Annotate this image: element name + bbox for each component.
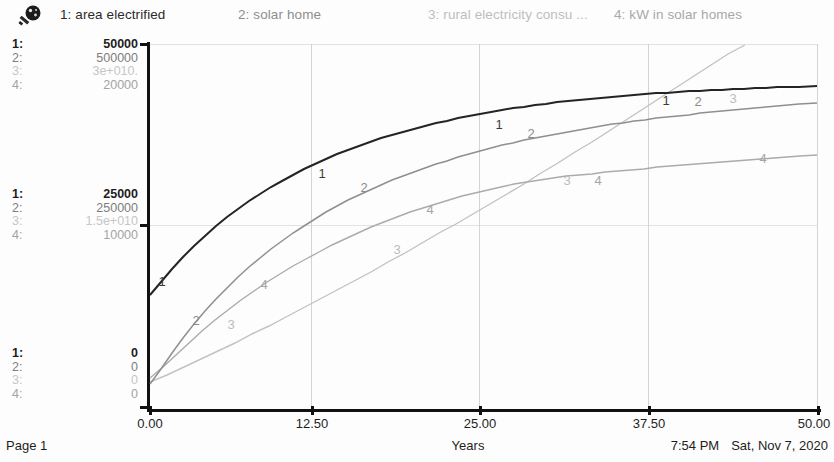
y-scale-row-2: 2: 0	[4, 361, 144, 375]
chart-page: 1: area electrified 2: solar home 3: rur…	[0, 0, 834, 462]
y-scale-value-2: 250000	[96, 202, 138, 216]
y-scale-row-4: 4: 20000	[4, 79, 144, 93]
y-scale-label-1: 1:	[12, 38, 23, 52]
gridline-vertical-2	[479, 44, 480, 410]
curve-marker-1-a: 1	[158, 274, 165, 289]
gridline-vertical-1	[311, 44, 312, 410]
y-scale-value-4: 0	[131, 388, 138, 402]
x-axis-tick-3	[648, 406, 651, 415]
curve-marker-4-d: 4	[759, 151, 766, 166]
y-scale-value-4: 20000	[103, 79, 138, 93]
curve-marker-3-d: 3	[729, 91, 736, 106]
y-axis-scale-top: 1: 50000 2: 500000 3: 3e+010. 4: 20000	[4, 38, 144, 92]
y-scale-row-2: 2: 500000	[4, 52, 144, 66]
y-scale-label-3: 3:	[12, 374, 22, 388]
x-axis-label-4: 50.00	[798, 416, 831, 431]
y-scale-label-1: 1:	[12, 347, 23, 361]
gridline-vertical-4	[817, 44, 818, 410]
y-scale-value-1: 0	[131, 347, 138, 361]
curve-series-1	[150, 86, 817, 295]
y-scale-value-1: 25000	[103, 188, 138, 202]
y-axis-tick-middle	[140, 224, 150, 227]
gridline-horizontal-middle	[150, 225, 818, 226]
x-axis-label-1: 12.50	[296, 416, 329, 431]
x-axis-tick-1	[311, 406, 314, 415]
timestamp: 7:54 PMSat, Nov 7, 2020	[671, 438, 828, 453]
x-axis-line	[147, 409, 821, 412]
gridline-vertical-3	[648, 44, 649, 410]
curve-marker-4-c: 4	[594, 173, 601, 188]
y-scale-value-3: 3e+010.	[92, 65, 138, 79]
curve-series-2	[150, 103, 817, 384]
curve-marker-3-b: 3	[393, 242, 400, 257]
y-scale-row-3: 3: 0	[4, 374, 144, 388]
curve-marker-1-d: 1	[662, 93, 669, 108]
y-scale-value-2: 0	[131, 361, 138, 375]
x-axis-label-3: 37.50	[633, 416, 666, 431]
y-scale-label-2: 2:	[12, 361, 22, 375]
y-scale-label-2: 2:	[12, 202, 22, 216]
curve-marker-1-b: 1	[318, 166, 325, 181]
x-axis-tick-4	[817, 406, 820, 415]
y-scale-label-2: 2:	[12, 52, 22, 66]
y-scale-value-4: 10000	[103, 229, 138, 243]
x-axis-label-0: 0.00	[137, 416, 162, 431]
y-scale-row-3: 3: 1.5e+010	[4, 215, 144, 229]
y-scale-row-4: 4: 10000	[4, 229, 144, 243]
timestamp-time: 7:54 PM	[671, 438, 719, 453]
curve-marker-2-c: 2	[527, 126, 534, 141]
y-scale-label-4: 4:	[12, 79, 22, 93]
y-scale-row-1: 1: 50000	[4, 38, 144, 52]
x-axis-title: Years	[452, 438, 485, 453]
magnifier-ball-icon	[16, 4, 44, 30]
y-axis-scale-middle: 1: 25000 2: 250000 3: 1.5e+010 4: 10000	[4, 188, 144, 242]
x-axis-tick-0	[149, 406, 152, 415]
y-scale-label-1: 1:	[12, 188, 23, 202]
y-scale-label-3: 3:	[12, 215, 22, 229]
curve-marker-3-a: 3	[227, 317, 234, 332]
curve-marker-2-b: 2	[360, 180, 367, 195]
y-scale-label-3: 3:	[12, 65, 22, 79]
legend-entry-4[interactable]: 4: kW in solar homes	[614, 7, 742, 22]
legend-entry-1[interactable]: 1: area electrified	[60, 7, 165, 22]
y-scale-row-4: 4: 0	[4, 388, 144, 402]
y-scale-value-2: 500000	[96, 52, 138, 66]
legend-entry-3[interactable]: 3: rural electricity consu ...	[428, 7, 588, 22]
y-scale-row-1: 1: 0	[4, 347, 144, 361]
y-scale-value-1: 50000	[103, 38, 138, 52]
curve-series-3	[150, 45, 745, 382]
y-scale-row-1: 1: 25000	[4, 188, 144, 202]
y-scale-row-3: 3: 3e+010.	[4, 65, 144, 79]
legend: 1: area electrified 2: solar home 3: rur…	[0, 0, 834, 34]
y-scale-value-3: 1.5e+010	[86, 215, 138, 229]
x-axis-label-2: 25.00	[464, 416, 497, 431]
y-scale-value-3: 0	[131, 374, 138, 388]
page-label: Page 1	[6, 438, 47, 453]
curve-marker-1-c: 1	[495, 117, 502, 132]
curve-marker-3-c: 3	[563, 173, 570, 188]
curve-marker-4-b: 4	[426, 202, 433, 217]
timestamp-date: Sat, Nov 7, 2020	[731, 438, 828, 453]
y-axis-tick-top	[140, 43, 150, 46]
y-scale-label-4: 4:	[12, 229, 22, 243]
gridline-horizontal-top	[150, 44, 818, 45]
legend-entry-2[interactable]: 2: solar home	[238, 7, 321, 22]
y-scale-label-4: 4:	[12, 388, 22, 402]
y-axis-line	[147, 42, 150, 412]
curve-marker-4-a: 4	[260, 277, 267, 292]
x-axis-tick-2	[479, 406, 482, 415]
curve-marker-2-a: 2	[192, 313, 199, 328]
curve-marker-2-d: 2	[694, 94, 701, 109]
y-axis-scale-bottom: 1: 0 2: 0 3: 0 4: 0	[4, 347, 144, 401]
curve-series-4	[150, 155, 817, 378]
y-scale-row-2: 2: 250000	[4, 202, 144, 216]
